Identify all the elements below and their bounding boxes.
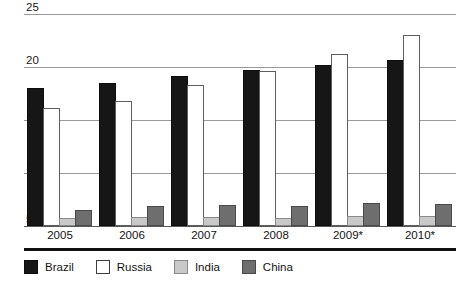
x-axis-tick-2007: 2007 (168, 228, 240, 242)
bar-chart: 252015105 20052006200720082009*2010* Bra… (0, 0, 466, 283)
bar-india-2007[interactable] (203, 217, 220, 226)
bar-russia-2006[interactable] (115, 101, 132, 226)
bar-russia-2005[interactable] (43, 108, 60, 226)
bar-india-2005[interactable] (59, 218, 76, 226)
bar-russia-2007[interactable] (187, 85, 204, 226)
bar-brazil-2009[interactable] (315, 65, 332, 226)
legend-swatch-india-icon (174, 260, 188, 274)
bar-brazil-2007[interactable] (171, 76, 188, 226)
bar-china-2008[interactable] (291, 206, 308, 226)
chart-legend: BrazilRussiaIndiaChina (24, 258, 315, 276)
bar-india-2008[interactable] (275, 218, 292, 226)
bar-india-2009[interactable] (347, 216, 364, 226)
legend-label: China (263, 261, 293, 274)
legend-swatch-russia-icon (96, 260, 110, 274)
legend-label: Russia (117, 261, 152, 274)
legend-label: Brazil (45, 261, 74, 274)
legend-swatch-brazil-icon (24, 260, 38, 274)
bar-group (312, 14, 384, 226)
x-axis-tick-2009: 2009* (312, 228, 384, 242)
bar-india-2006[interactable] (131, 217, 148, 226)
legend-item-brazil[interactable]: Brazil (24, 260, 74, 274)
bar-group (168, 14, 240, 226)
bar-group (96, 14, 168, 226)
legend-item-china[interactable]: China (242, 260, 293, 274)
bar-china-2005[interactable] (75, 210, 92, 226)
legend-item-india[interactable]: India (174, 260, 220, 274)
x-axis-tick-2005: 2005 (24, 228, 96, 242)
bar-brazil-2006[interactable] (99, 83, 116, 226)
bar-china-2007[interactable] (219, 205, 236, 226)
x-axis-labels: 20052006200720082009*2010* (24, 228, 456, 246)
x-axis-tick-2010: 2010* (384, 228, 456, 242)
bar-brazil-2005[interactable] (27, 88, 44, 226)
bar-china-2009[interactable] (363, 203, 380, 226)
bar-china-2010[interactable] (435, 204, 452, 226)
y-axis-tick-25: 25 (26, 2, 39, 14)
bar-india-2010[interactable] (419, 216, 436, 226)
bar-brazil-2008[interactable] (243, 70, 260, 226)
bar-group (384, 14, 456, 226)
x-axis-tick-2006: 2006 (96, 228, 168, 242)
bar-russia-2009[interactable] (331, 54, 348, 226)
axis-rule (24, 248, 456, 251)
bar-brazil-2010[interactable] (387, 60, 404, 226)
bar-russia-2010[interactable] (403, 35, 420, 226)
bar-china-2006[interactable] (147, 206, 164, 226)
bar-groups (24, 14, 456, 226)
bar-group (24, 14, 96, 226)
legend-item-russia[interactable]: Russia (96, 260, 152, 274)
x-axis-tick-2008: 2008 (240, 228, 312, 242)
legend-swatch-china-icon (242, 260, 256, 274)
x-axis-line (24, 226, 456, 227)
bar-russia-2008[interactable] (259, 71, 276, 226)
bar-group (240, 14, 312, 226)
legend-label: India (195, 261, 220, 274)
